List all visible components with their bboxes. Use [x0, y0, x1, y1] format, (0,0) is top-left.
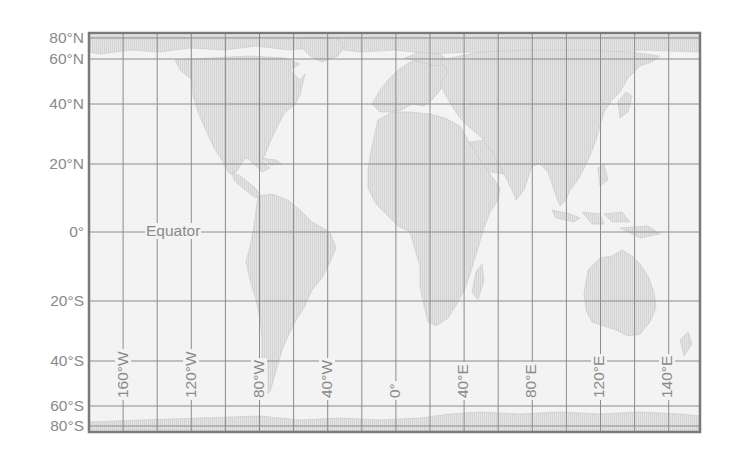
world-map: 80°N60°N40°N20°N0°20°S40°S60°S80°S 160°W…	[0, 0, 731, 455]
latitude-label: 0°	[69, 224, 84, 240]
latitude-label: 20°N	[49, 156, 84, 172]
longitude-label: 120°E	[591, 354, 607, 400]
longitude-label: 120°W	[183, 349, 199, 400]
latitude-label: 40°S	[50, 353, 84, 369]
longitude-label: 80°W	[251, 358, 267, 400]
longitude-label: 80°E	[523, 362, 539, 400]
latitude-label: 20°S	[50, 293, 84, 309]
latitude-label: 60°S	[50, 398, 84, 414]
map-canvas	[0, 0, 731, 455]
longitude-label: 0°	[387, 381, 403, 400]
latitude-label: 80°S	[50, 418, 84, 434]
latitude-label: 40°N	[49, 96, 84, 112]
latitude-label: 60°N	[49, 51, 84, 67]
equator-label: Equator	[145, 223, 201, 239]
longitude-label: 140°E	[659, 354, 675, 400]
longitude-label: 40°W	[319, 358, 335, 400]
longitude-label: 40°E	[455, 362, 471, 400]
latitude-label: 80°N	[49, 30, 84, 46]
longitude-label: 160°W	[115, 349, 131, 400]
